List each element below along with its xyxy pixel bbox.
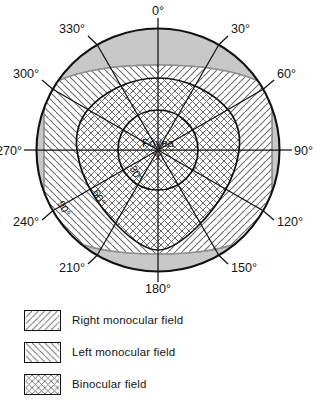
fovea-marker: x: [155, 151, 161, 162]
legend-label-left-monocular: Left monocular field: [72, 346, 175, 358]
legend-item-binocular: Binocular field: [24, 373, 146, 395]
legend-label-right-monocular: Right monocular field: [72, 314, 183, 326]
meridian-label-180: 180°: [145, 282, 171, 296]
legend-label-binocular: Binocular field: [72, 378, 146, 390]
meridian-label-60: 60°: [277, 67, 296, 81]
meridian-label-150: 150°: [231, 261, 257, 275]
meridian-label-120: 120°: [277, 215, 303, 229]
legend-swatch-forward-hatch-icon: [24, 310, 61, 331]
meridian-label-240: 240°: [13, 215, 39, 229]
legend-item-right-monocular: Right monocular field: [24, 309, 183, 331]
meridian-label-330: 330°: [59, 22, 85, 36]
meridian-label-300: 300°: [13, 67, 39, 81]
visual-field-polar-chart: 0° 30° 60° 90° 120° 150° 180° 210° 240° …: [0, 0, 319, 296]
figure-root: 0° 30° 60° 90° 120° 150° 180° 210° 240° …: [0, 0, 319, 412]
legend-item-left-monocular: Left monocular field: [24, 341, 175, 363]
meridian-label-210: 210°: [59, 261, 85, 275]
meridian-label-30: 30°: [231, 22, 250, 36]
meridian-label-0: 0°: [152, 4, 164, 18]
meridian-label-90: 90°: [294, 144, 313, 158]
fovea-label: Fovea: [142, 137, 175, 149]
legend-swatch-cross-hatch-icon: [24, 374, 61, 395]
meridian-label-270: 270°: [0, 144, 22, 158]
legend: Right monocular field Left monocular fie…: [0, 296, 319, 412]
legend-swatch-back-hatch-icon: [24, 342, 61, 363]
